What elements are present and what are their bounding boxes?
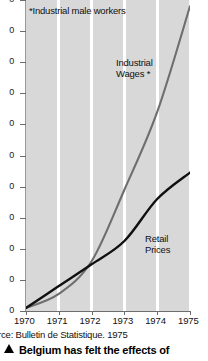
x-axis-tick-label: 1970: [14, 315, 35, 326]
caption-text: Belgium has felt the effects of: [19, 344, 169, 357]
x-axis-tick-label: 1973: [112, 315, 133, 326]
series-label-retail-prices-line2: Prices: [145, 244, 170, 255]
y-axis-tick-label: 0: [0, 306, 14, 315]
y-axis-tick-label: 0: [0, 0, 14, 4]
y-axis-tick: [20, 124, 26, 125]
series-label-industrial-wages: Industrial Wages *: [116, 58, 153, 79]
y-axis-tick-label: 0: [0, 244, 14, 253]
y-axis-tick: [20, 93, 26, 94]
x-axis: [25, 311, 191, 312]
series-lines: [26, 0, 190, 311]
x-axis-tick-label: 1975: [178, 315, 199, 326]
series-label-industrial-wages-line1: Industrial: [116, 57, 153, 68]
y-axis-tick: [20, 280, 26, 281]
y-axis-tick: [20, 249, 26, 250]
x-axis-tick-label: 1972: [80, 315, 101, 326]
y-axis-tick: [20, 62, 26, 63]
y-axis-tick-label: 0: [0, 88, 14, 97]
y-axis-tick-label: 0: [0, 57, 14, 66]
chart-figure: 00000000000 197019711972197319741975 *In…: [0, 0, 208, 361]
footnote-industrial-male-workers: *Industrial male workers: [29, 5, 126, 16]
y-axis-tick-label: 0: [0, 26, 14, 35]
y-axis-tick-label: 0: [0, 151, 14, 160]
y-axis-tick: [20, 31, 26, 32]
y-axis-tick: [20, 0, 26, 1]
caption: Belgium has felt the effects of: [4, 344, 208, 357]
industrial-wages-line: [26, 6, 190, 308]
y-axis-tick-label: 0: [0, 119, 14, 128]
y-axis-tick-label: 0: [0, 182, 14, 191]
y-axis-tick: [20, 156, 26, 157]
triangle-up-icon: [4, 344, 14, 353]
y-axis-tick-label: 0: [0, 275, 14, 284]
x-axis-tick-label: 1974: [145, 315, 166, 326]
y-axis-tick-label: 0: [0, 213, 14, 222]
source-line: urce: Bulletin de Statistique. 1975: [0, 329, 128, 340]
x-axis-tick-label: 1971: [47, 315, 68, 326]
y-axis-tick: [20, 187, 26, 188]
series-label-industrial-wages-line2: Wages *: [116, 68, 150, 79]
series-label-retail-prices-line1: Retail: [145, 233, 168, 244]
series-label-retail-prices: Retail Prices: [145, 234, 170, 255]
plot-area: [26, 0, 190, 311]
y-axis-tick: [20, 218, 26, 219]
